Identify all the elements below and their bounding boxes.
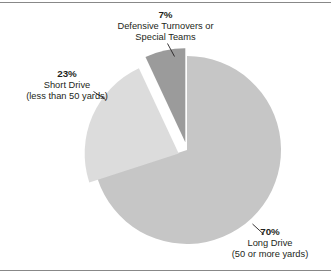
callout-special-teams-percent: 7% [0,9,331,21]
callout-short-drive-line1: Short Drive [6,80,128,91]
callout-special-teams-line2: Special Teams [0,32,331,43]
callout-short-drive-percent: 23% [6,68,128,80]
callout-short-drive-line2: (less than 50 yards) [6,91,128,102]
callout-short-drive: 23% Short Drive (less than 50 yards) [6,68,128,103]
callout-long-drive-percent: 70% [212,226,328,238]
pie-chart-figure: 7% Defensive Turnovers or Special Teams … [0,0,331,279]
callout-long-drive-line2: (50 or more yards) [212,249,328,260]
callout-special-teams-line1: Defensive Turnovers or [0,21,331,32]
callout-special-teams: 7% Defensive Turnovers or Special Teams [0,9,331,44]
callout-long-drive-line1: Long Drive [212,238,328,249]
callout-long-drive: 70% Long Drive (50 or more yards) [212,226,328,261]
